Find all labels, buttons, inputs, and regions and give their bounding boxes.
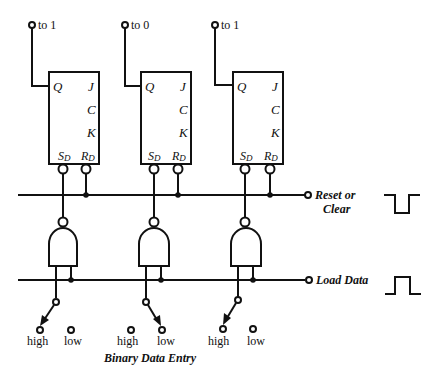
nand-gate-3 — [231, 174, 261, 300]
low-label-1: low — [64, 334, 82, 348]
low-label-2: low — [157, 334, 175, 348]
pin-q-3: Q — [237, 79, 247, 94]
low-contact-2[interactable] — [159, 327, 165, 333]
low-contact-1[interactable] — [68, 327, 74, 333]
pin-k-2: K — [178, 125, 189, 140]
nand-body-2 — [139, 228, 169, 266]
positive-pulse-waveform — [385, 277, 421, 294]
nand-gate-2 — [139, 174, 169, 300]
pin-k-3: K — [270, 125, 281, 140]
flip-flop-2: to 0 Q J C K SD RD — [122, 18, 191, 174]
output-label-1: to 1 — [38, 18, 56, 32]
output-terminal-3 — [212, 22, 218, 28]
pin-c-3: C — [271, 102, 280, 117]
caption: Binary Data Entry — [103, 351, 197, 365]
high-label-1: high — [27, 334, 48, 348]
switch-arm-3 — [227, 303, 236, 318]
high-contact-2[interactable] — [128, 327, 134, 333]
rd-bubble-1 — [82, 165, 91, 174]
pin-k-1: K — [86, 125, 97, 140]
flip-flop-3: to 1 Q J C K SD RD — [212, 18, 283, 174]
nand-output-bubble-3 — [241, 218, 250, 227]
switch-pivot-1 — [53, 299, 59, 305]
q-wire-3 — [215, 28, 233, 85]
nand-output-bubble-1 — [59, 218, 68, 227]
output-terminal-1 — [29, 22, 35, 28]
nand-body-3 — [231, 228, 261, 266]
reset-terminal — [305, 192, 311, 198]
junction-dot — [175, 192, 181, 198]
reset-label-line1: Reset or — [314, 188, 356, 202]
junction-dot — [250, 277, 256, 283]
sd-bubble-2 — [150, 165, 159, 174]
circuit-diagram: to 1 Q J C K SD RD to 0 Q J C K SD RD to… — [0, 0, 437, 379]
junction-dot — [68, 277, 74, 283]
sd-bubble-3 — [241, 165, 250, 174]
output-terminal-2 — [122, 22, 128, 28]
rd-bubble-3 — [266, 165, 275, 174]
junction-dot — [158, 277, 164, 283]
low-label-3: low — [247, 334, 265, 348]
load-data-line: Load Data — [18, 273, 421, 294]
high-label-3: high — [208, 334, 229, 348]
output-label-3: to 1 — [221, 18, 239, 32]
switch-2[interactable]: high low — [117, 299, 175, 348]
high-label-2: high — [117, 334, 138, 348]
nand-body-1 — [49, 228, 77, 266]
negative-pulse-waveform — [384, 195, 420, 213]
load-label: Load Data — [315, 273, 368, 287]
reset-label-line2: Clear — [323, 202, 351, 216]
q-wire-2 — [125, 28, 141, 86]
pin-q-1: Q — [53, 79, 63, 94]
switch-1[interactable]: high low — [27, 293, 82, 348]
sd-bubble-1 — [59, 165, 68, 174]
switch-pivot-3 — [235, 297, 241, 303]
pin-c-2: C — [179, 102, 188, 117]
junction-dot — [83, 192, 89, 198]
junction-dot — [267, 192, 273, 198]
high-contact-3[interactable] — [220, 326, 226, 332]
high-contact-1[interactable] — [37, 327, 43, 333]
flip-flop-1: to 1 Q J C K SD RD — [29, 18, 99, 174]
nand-output-bubble-2 — [150, 218, 159, 227]
switch-3[interactable]: high low — [208, 297, 265, 348]
load-terminal — [306, 277, 312, 283]
low-contact-3[interactable] — [250, 326, 256, 332]
output-label-2: to 0 — [131, 18, 149, 32]
rd-bubble-2 — [174, 165, 183, 174]
pin-q-2: Q — [145, 79, 155, 94]
reset-line: Reset or Clear — [18, 174, 420, 216]
arrow-head-icon — [40, 315, 49, 326]
pin-c-1: C — [87, 102, 96, 117]
switch-pivot-2 — [143, 299, 149, 305]
q-wire-1 — [32, 28, 49, 86]
nand-gate-1 — [49, 174, 77, 293]
